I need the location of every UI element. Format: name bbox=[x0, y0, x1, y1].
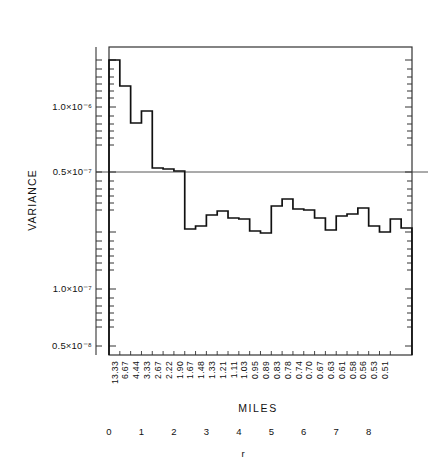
y-tick-label: 1.0×10⁻⁷ bbox=[53, 283, 93, 294]
plot-frame bbox=[109, 47, 412, 355]
x-tick-label-miles: 13.33 bbox=[110, 361, 120, 384]
y-axis-tick-labels: 1.0×10⁻⁶0.5×10⁻⁷1.0×10⁻⁷0.5×10⁻⁸ bbox=[52, 101, 92, 351]
r-tick-label: 0 bbox=[106, 426, 111, 437]
y-axis-ticks-right bbox=[405, 60, 412, 346]
x-tick-label-miles: 0.61 bbox=[337, 361, 347, 379]
r-tick-label: 8 bbox=[366, 426, 371, 437]
x-tick-label-miles: 2.67 bbox=[153, 361, 163, 379]
r-tick-label: 5 bbox=[269, 426, 274, 437]
x-tick-label-miles: 0.89 bbox=[261, 361, 271, 379]
x-tick-label-miles: 0.56 bbox=[358, 361, 368, 379]
x-axis-title: MILES bbox=[238, 402, 278, 414]
y-tick-label: 0.5×10⁻⁷ bbox=[53, 166, 93, 177]
r-tick-label: 6 bbox=[301, 426, 306, 437]
r-tick-label: 7 bbox=[334, 426, 339, 437]
y-axis-ticks bbox=[96, 47, 116, 355]
x-tick-label-miles: 0.63 bbox=[326, 361, 336, 379]
r-tick-label: 3 bbox=[204, 426, 209, 437]
x-tick-label-miles: 3.33 bbox=[142, 361, 152, 379]
x-tick-label-miles: 0.53 bbox=[369, 361, 379, 379]
x-tick-label-miles: 0.78 bbox=[283, 361, 293, 379]
x-tick-label-miles: 0.95 bbox=[250, 361, 260, 379]
r-tick-label: 4 bbox=[236, 426, 241, 437]
r-tick-label: 2 bbox=[171, 426, 176, 437]
x-tick-label-miles: 0.58 bbox=[348, 361, 358, 379]
plot-canvas: 1.0×10⁻⁶0.5×10⁻⁷1.0×10⁻⁷0.5×10⁻⁸ 13.336.… bbox=[0, 0, 428, 465]
y-tick-label: 0.5×10⁻⁸ bbox=[52, 340, 92, 351]
x-tick-label-miles: 1.90 bbox=[175, 361, 185, 379]
variance-step-trace bbox=[109, 60, 412, 355]
x-tick-label-miles: 4.44 bbox=[131, 361, 141, 379]
x-tick-label-miles: 1.21 bbox=[218, 361, 228, 379]
x-tick-label-miles: 0.83 bbox=[272, 361, 282, 379]
variance-spectrum-figure: 1.0×10⁻⁶0.5×10⁻⁷1.0×10⁻⁷0.5×10⁻⁸ 13.336.… bbox=[0, 0, 428, 465]
y-tick-label: 1.0×10⁻⁶ bbox=[52, 101, 92, 112]
x-tick-label-miles: 0.74 bbox=[294, 361, 304, 379]
x-tick-label-miles: 0.70 bbox=[304, 361, 314, 379]
r-tick-label: 1 bbox=[139, 426, 144, 437]
x-tick-label-miles: 0.67 bbox=[315, 361, 325, 379]
x-tick-label-miles: 0.51 bbox=[380, 361, 390, 379]
y-axis-title: VARIANCE bbox=[26, 169, 38, 231]
secondary-x-axis-title: r bbox=[241, 448, 244, 459]
x-tick-label-miles: 1.03 bbox=[239, 361, 249, 379]
x-tick-label-miles: 1.11 bbox=[229, 361, 239, 378]
x-tick-label-miles: 2.22 bbox=[164, 361, 174, 379]
x-tick-label-miles: 1.67 bbox=[185, 361, 195, 379]
r-axis-labels: 012345678 bbox=[106, 426, 371, 437]
x-tick-label-miles: 1.48 bbox=[196, 361, 206, 379]
x-tick-label-miles: 1.33 bbox=[207, 361, 217, 379]
x-tick-label-miles: 6.67 bbox=[120, 361, 130, 379]
x-axis-miles-labels: 13.336.674.443.332.672.221.901.671.481.3… bbox=[110, 361, 391, 384]
